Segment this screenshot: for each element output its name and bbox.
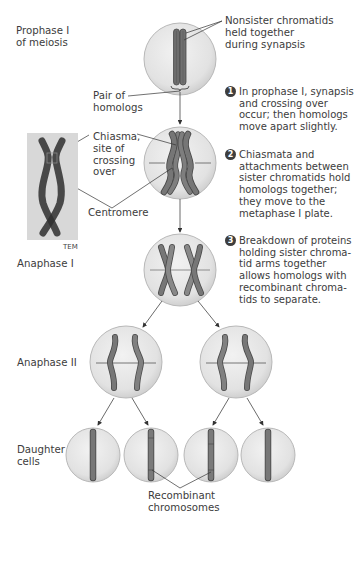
- daughter-cell-2: [124, 428, 178, 482]
- daughter-cell-3: [184, 428, 238, 482]
- step-2: 2 Chiasmata and attachments between sist…: [239, 149, 350, 219]
- stage-label-anaphase-ii: Anaphase II: [17, 357, 77, 369]
- step-1: 1 In prophase I, synapsis and crossing o…: [239, 86, 354, 133]
- callout-recombinant-chromosomes: Recombinant chromosomes: [148, 490, 219, 514]
- step-number-3: 3: [225, 235, 236, 246]
- daughter-cell-1: [66, 428, 120, 482]
- step-3: 3 Breakdown of proteins holding sister c…: [239, 235, 352, 305]
- callout-nonsister-chromatids: Nonsister chromatids held together durin…: [225, 15, 333, 50]
- tem-caption: TEM: [63, 243, 78, 251]
- stage-label-daughter-cells: Daughter cells: [17, 444, 65, 468]
- callout-pair-of-homologs: Pair of homologs: [93, 90, 143, 114]
- callout-chiasma: Chiasma, site of crossing over: [93, 131, 140, 178]
- stage-label-prophase-i: Prophase I of meiosis: [16, 25, 69, 49]
- daughter-cell-4: [241, 428, 295, 482]
- callout-centromere: Centromere: [88, 207, 148, 219]
- cell-anaphase-ii-left: [90, 326, 162, 398]
- cell-anaphase-i: [144, 234, 216, 306]
- step-number-2: 2: [225, 149, 236, 160]
- cell-prophase-i: [144, 23, 216, 95]
- step-number-1: 1: [225, 86, 236, 97]
- stage-label-anaphase-i: Anaphase I: [17, 258, 74, 270]
- cell-anaphase-ii-right: [200, 326, 272, 398]
- tem-micrograph: [27, 133, 78, 240]
- cell-metaphase-i: [144, 127, 216, 199]
